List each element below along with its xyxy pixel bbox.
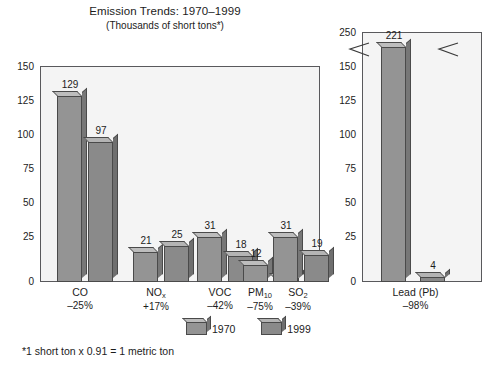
bar-side-face [406, 39, 411, 278]
right-ytick-75: 75 [330, 164, 356, 174]
left-ytick-0: 0 [8, 277, 34, 287]
swatch-top-face [182, 318, 207, 322]
legend-label-1999: 1999 [287, 323, 310, 335]
chart-header: Emission Trends: 1970–1999 (Thousands of… [0, 4, 330, 32]
bar-front-face [243, 265, 268, 282]
bar-front-face [57, 96, 82, 282]
bar-side-face [189, 238, 194, 278]
category-label-so2: SO2 –39% [268, 286, 328, 313]
swatch-front-face [186, 322, 207, 335]
category-name-co: CO [72, 286, 88, 298]
right-ytick-125: 125 [330, 96, 356, 106]
chart-subtitle: (Thousands of short tons*) [0, 19, 330, 32]
bar-1970-co[interactable] [57, 96, 82, 282]
legend-swatch-1999-icon [261, 322, 282, 335]
bar-1970-lead[interactable] [381, 47, 406, 282]
bar-side-face [113, 134, 118, 278]
swatch-side-face [207, 316, 211, 332]
category-label-co: CO –25% [50, 286, 110, 312]
bar-front-face [304, 255, 329, 282]
swatch-top-face [257, 318, 282, 322]
swatch-front-face [261, 322, 282, 335]
legend-swatch-1970-icon [186, 322, 207, 335]
bar-value-1970-so2: 31 [266, 221, 306, 231]
category-name-voc: VOC [209, 286, 232, 298]
bar-top-face [52, 91, 82, 96]
bar-side-face [158, 244, 163, 278]
axis-break-zigzag-icon [348, 42, 370, 58]
right-plot-area [362, 32, 482, 282]
right-ytick-0: 0 [330, 277, 356, 287]
bar-front-face [88, 142, 113, 282]
left-ytick-150: 150 [8, 62, 34, 72]
right-ytick-100: 100 [330, 130, 356, 140]
right-ytick-50: 50 [330, 198, 356, 208]
bar-front-face [381, 47, 406, 282]
bar-value-1999-lead: 4 [413, 261, 453, 271]
bar-front-face [133, 252, 158, 282]
left-ytick-100: 100 [8, 130, 34, 140]
category-pct-co: –25% [50, 299, 110, 312]
bar-value-1970-pm10: 12 [236, 249, 276, 259]
bar-value-1999-co: 97 [81, 126, 121, 136]
bar-top-face [376, 42, 406, 47]
category-label-nox: NOx +17% [126, 286, 186, 313]
bar-1999-so2[interactable] [304, 255, 329, 282]
left-ytick-125: 125 [8, 96, 34, 106]
category-sub-so2: 2 [304, 291, 308, 300]
bar-top-face [128, 247, 158, 252]
bar-top-face [268, 232, 298, 237]
right-ytick-25: 25 [330, 232, 356, 242]
category-pct-lead: –98% [378, 299, 453, 312]
bar-front-face [164, 246, 189, 282]
category-pct-nox: +17% [126, 300, 186, 313]
bar-side-face [82, 88, 87, 278]
category-pct-so2: –39% [268, 300, 328, 313]
bar-side-face [329, 247, 334, 278]
bar-top-face [83, 137, 113, 142]
right-ytick-150: 150 [330, 62, 356, 72]
bar-1970-nox[interactable] [133, 252, 158, 282]
bar-front-face [420, 277, 445, 282]
category-sub-nox: x [162, 291, 166, 300]
chart-legend: 1970 1999 [186, 322, 311, 335]
bar-value-1970-lead: 221 [374, 31, 414, 41]
legend-item-1970[interactable]: 1970 [186, 322, 257, 335]
bar-front-face [197, 237, 222, 282]
right-ytick-250: 250 [330, 28, 356, 38]
bar-top-face [192, 232, 222, 237]
left-ytick-50: 50 [8, 198, 34, 208]
category-name-so2: SO [288, 286, 303, 298]
bar-top-face [238, 260, 268, 265]
chart-footnote: *1 short ton x 0.91 = 1 metric ton [22, 345, 174, 357]
left-ytick-25: 25 [8, 232, 34, 242]
category-label-lead: Lead (Pb) –98% [378, 286, 453, 312]
bar-1999-nox[interactable] [164, 246, 189, 282]
bar-1970-voc[interactable] [197, 237, 222, 282]
bar-1999-lead[interactable] [420, 277, 445, 282]
bar-top-face [299, 250, 329, 255]
bar-front-face [273, 237, 298, 282]
bar-top-face [159, 241, 189, 246]
legend-item-1999[interactable]: 1999 [261, 322, 310, 335]
legend-label-1970: 1970 [212, 323, 235, 335]
swatch-side-face [282, 316, 286, 332]
bar-1999-co[interactable] [88, 142, 113, 282]
category-name-nox: NO [146, 286, 162, 298]
category-name-lead: Lead (Pb) [392, 286, 438, 298]
bar-top-face [415, 272, 445, 277]
bar-value-1970-co: 129 [50, 80, 90, 90]
axis-break-zigzag-right-icon [437, 42, 459, 58]
left-ytick-75: 75 [8, 164, 34, 174]
bar-1970-so2[interactable] [273, 237, 298, 282]
page-title: Emission Trends: 1970–1999 [0, 4, 330, 19]
bar-value-1970-voc: 31 [190, 221, 230, 231]
category-name-pm10: PM [248, 286, 264, 298]
bar-1970-pm10[interactable] [243, 265, 268, 282]
